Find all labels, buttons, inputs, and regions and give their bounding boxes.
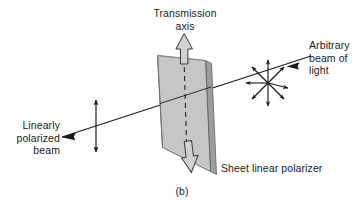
label-arbitrary-beam-of-light: Arbitrary beam of light [309,39,363,77]
sheet-front-face [158,56,211,172]
label-linearly-polarized-beam: Linearly polarized beam [2,119,60,157]
unpolarized-starburst [246,60,288,106]
polarizer-figure: Transmission axis Arbitrary beam of ligh… [0,0,363,207]
label-sheet-linear-polarizer: Sheet linear polarizer [221,162,361,175]
label-transmission-axis: Transmission axis [133,7,237,32]
figure-caption: (b) [148,185,216,198]
starburst-ray-nw [252,67,268,83]
starburst-ray-sw [252,83,268,99]
